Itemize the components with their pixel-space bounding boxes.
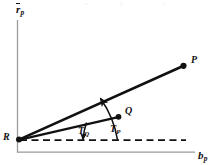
- y-axis-label: rp: [16, 4, 24, 15]
- point-label-p: P: [191, 55, 197, 65]
- point-marker-r: [16, 137, 22, 143]
- point-marker-q: [116, 114, 122, 120]
- x-axis-label-symbol: b: [198, 149, 204, 161]
- angle-label-tq-subscript: Q: [84, 130, 89, 137]
- ray-r-to-p: [19, 67, 182, 140]
- figure-container: = f e: [0, 0, 219, 165]
- y-axis-label-subscript: p: [20, 8, 24, 17]
- axis-lines: [17, 20, 195, 153]
- ray-r-to-q: [19, 117, 117, 140]
- angle-label-tp-subscript: P: [116, 128, 120, 135]
- angle-label-tp: TP: [110, 124, 120, 134]
- x-axis-label-subscript: p: [204, 154, 208, 163]
- angle-label-tq: TQ: [78, 126, 89, 136]
- point-marker-p: [180, 63, 186, 69]
- figure-drawing: [0, 0, 219, 165]
- point-label-q: Q: [125, 106, 132, 116]
- x-axis-label: bp: [198, 150, 207, 161]
- point-label-r: R: [3, 132, 10, 142]
